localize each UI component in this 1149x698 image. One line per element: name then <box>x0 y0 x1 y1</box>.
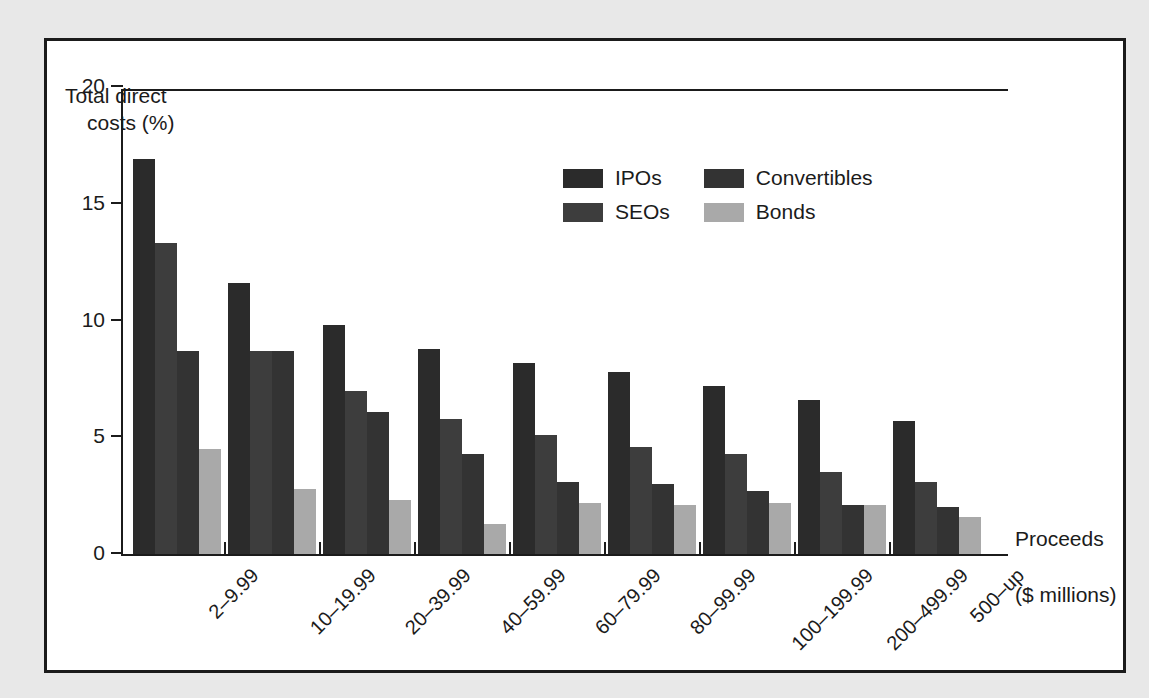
x-axis-tick-label: 10–19.99 <box>305 564 380 639</box>
bar-group <box>703 91 791 554</box>
legend-label: IPOs <box>615 166 662 190</box>
x-axis-title: Proceeds ($ millions) <box>1015 497 1117 637</box>
bar-group-bars <box>513 91 601 554</box>
legend-label: Bonds <box>756 200 816 224</box>
x-axis-tick <box>699 542 701 555</box>
plot-frame: 05101520 <box>121 89 1008 556</box>
bar-group-bars <box>798 91 886 554</box>
legend-swatch-icon <box>563 169 603 188</box>
bar-seos[interactable] <box>535 435 557 554</box>
figure-panel: Total direct costs (%) 05101520 2–9.9910… <box>44 38 1126 673</box>
bar-group-bars <box>323 91 411 554</box>
bar-group-bars <box>703 91 791 554</box>
bar-bonds[interactable] <box>484 524 506 554</box>
bar-seos[interactable] <box>725 454 747 554</box>
bar-seos[interactable] <box>250 351 272 554</box>
legend-item-convertibles[interactable]: Convertibles <box>704 166 873 190</box>
bar-groups <box>123 91 1008 554</box>
bar-convertibles[interactable] <box>842 505 864 554</box>
y-axis-tick-label: 15 <box>82 191 105 215</box>
bar-seos[interactable] <box>345 391 367 554</box>
y-axis-tick-label: 10 <box>82 308 105 332</box>
bar-seos[interactable] <box>630 447 652 554</box>
bar-group <box>893 91 981 554</box>
bar-ipos[interactable] <box>323 325 345 554</box>
chart-legend: IPOsConvertiblesSEOsBonds <box>563 166 873 224</box>
x-axis-title-line1: Proceeds <box>1015 525 1117 553</box>
bar-bonds[interactable] <box>579 503 601 554</box>
bar-group <box>133 91 221 554</box>
bar-group-bars <box>133 91 221 554</box>
x-axis-tick <box>414 542 416 555</box>
bar-bonds[interactable] <box>294 489 316 554</box>
bar-seos[interactable] <box>820 472 842 554</box>
bar-group <box>228 91 316 554</box>
bar-convertibles[interactable] <box>557 482 579 554</box>
bar-convertibles[interactable] <box>652 484 674 554</box>
bar-convertibles[interactable] <box>367 412 389 554</box>
bar-convertibles[interactable] <box>177 351 199 554</box>
legend-label: Convertibles <box>756 166 873 190</box>
x-axis-tick-label: 40–59.99 <box>495 564 570 639</box>
x-axis-title-line2: ($ millions) <box>1015 581 1117 609</box>
bar-bonds[interactable] <box>389 500 411 554</box>
y-axis-tick: 20 <box>111 85 123 87</box>
bar-ipos[interactable] <box>608 372 630 554</box>
legend-swatch-icon <box>563 203 603 222</box>
x-axis-tick <box>224 542 226 555</box>
bar-seos[interactable] <box>155 243 177 554</box>
legend-item-bonds[interactable]: Bonds <box>704 200 873 224</box>
bar-group <box>608 91 696 554</box>
bar-convertibles[interactable] <box>937 507 959 554</box>
x-axis-tick-labels: 2–9.9910–19.9920–39.9940–59.9960–79.9980… <box>121 558 1008 668</box>
plot-area: 05101520 <box>123 91 1008 554</box>
legend-item-seos[interactable]: SEOs <box>563 200 670 224</box>
bar-group <box>323 91 411 554</box>
bar-bonds[interactable] <box>864 505 886 554</box>
bar-convertibles[interactable] <box>272 351 294 554</box>
bar-group-bars <box>608 91 696 554</box>
x-axis-tick <box>794 542 796 555</box>
x-axis-tick <box>319 542 321 555</box>
bar-bonds[interactable] <box>674 505 696 554</box>
x-axis-tick-label: 200–499.99 <box>881 564 972 655</box>
bar-bonds[interactable] <box>199 449 221 554</box>
bar-group-bars <box>418 91 506 554</box>
bar-convertibles[interactable] <box>747 491 769 554</box>
bar-ipos[interactable] <box>228 283 250 554</box>
y-axis-tick-label: 5 <box>93 424 105 448</box>
bar-seos[interactable] <box>440 419 462 554</box>
bar-ipos[interactable] <box>133 159 155 554</box>
bar-bonds[interactable] <box>769 503 791 554</box>
bar-group <box>418 91 506 554</box>
x-axis-tick-label: 100–199.99 <box>786 564 877 655</box>
legend-swatch-icon <box>704 203 744 222</box>
y-axis-tick-label: 0 <box>93 541 105 565</box>
x-axis-tick-label: 60–79.99 <box>590 564 665 639</box>
x-axis-tick-label: 2–9.99 <box>203 564 263 624</box>
bar-group <box>798 91 886 554</box>
y-axis-tick: 5 <box>111 435 123 437</box>
x-axis-tick-label: 80–99.99 <box>685 564 760 639</box>
bar-ipos[interactable] <box>418 349 440 554</box>
bar-seos[interactable] <box>915 482 937 554</box>
bar-ipos[interactable] <box>513 363 535 554</box>
bar-ipos[interactable] <box>798 400 820 554</box>
bar-group <box>513 91 601 554</box>
x-axis-tick-label: 20–39.99 <box>400 564 475 639</box>
legend-label: SEOs <box>615 200 670 224</box>
y-axis-tick: 15 <box>111 202 123 204</box>
x-axis-tick <box>889 542 891 555</box>
bar-ipos[interactable] <box>893 421 915 554</box>
x-axis-tick <box>509 542 511 555</box>
legend-swatch-icon <box>704 169 744 188</box>
legend-item-ipos[interactable]: IPOs <box>563 166 670 190</box>
bar-bonds[interactable] <box>959 517 981 554</box>
y-axis-tick-label: 20 <box>82 74 105 98</box>
y-axis-tick: 10 <box>111 319 123 321</box>
bar-group-bars <box>893 91 981 554</box>
bar-convertibles[interactable] <box>462 454 484 554</box>
y-axis-tick: 0 <box>111 552 123 554</box>
bar-ipos[interactable] <box>703 386 725 554</box>
bar-group-bars <box>228 91 316 554</box>
